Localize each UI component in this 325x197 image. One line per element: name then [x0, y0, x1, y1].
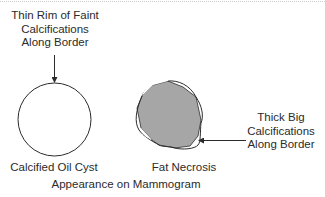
oil-cyst-callout: Thin Rim of Faint Calcifications Along B… — [5, 9, 105, 50]
oil-cyst-label: Calcified Oil Cyst — [4, 161, 104, 175]
callout-line: Calcifications — [236, 125, 325, 139]
fat-necrosis-callout: Thick Big Calcifications Along Border — [236, 111, 325, 152]
callout-line: Calcifications — [5, 23, 105, 37]
diagram-title: Appearance on Mammogram — [51, 178, 201, 192]
fat-necrosis-shape — [136, 80, 202, 149]
oil-cyst-shape — [18, 83, 91, 156]
callout-line: Thin Rim of Faint — [5, 9, 105, 23]
callout-line: Along Border — [5, 36, 105, 50]
callout-line: Along Border — [236, 138, 325, 152]
fat-necrosis-label: Fat Necrosis — [134, 161, 234, 175]
callout-line: Thick Big — [236, 111, 325, 125]
